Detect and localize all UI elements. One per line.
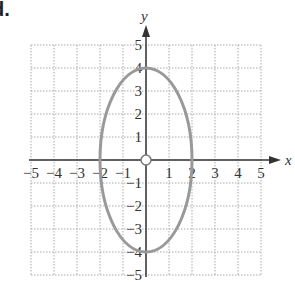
x-tick-label: −3 — [69, 165, 85, 181]
x-axis-label: x — [284, 152, 292, 168]
y-axis-arrow-icon — [142, 25, 150, 37]
y-tick-label: −5 — [126, 267, 142, 282]
x-tick-label: −4 — [46, 165, 62, 181]
x-tick-label: 4 — [234, 165, 242, 181]
y-tick-label: 1 — [135, 129, 143, 145]
x-tick-label: −5 — [23, 165, 39, 181]
y-tick-label: 2 — [135, 106, 143, 122]
y-tick-label: −1 — [126, 175, 142, 191]
x-tick-label: 3 — [211, 165, 219, 181]
y-tick-label: −3 — [126, 221, 142, 237]
x-tick-label: 1 — [165, 165, 173, 181]
y-axis-label: y — [139, 8, 148, 24]
y-tick-label: −2 — [126, 198, 142, 214]
center-open-circle — [141, 155, 151, 165]
y-tick-label: 5 — [135, 37, 143, 53]
x-axis-arrow-icon — [269, 156, 281, 164]
y-tick-label: 3 — [135, 83, 143, 99]
x-tick-label: 5 — [257, 165, 265, 181]
ellipse-chart: xy−5−4−3−2−11234554321−1−2−3−4−5 — [0, 0, 295, 282]
